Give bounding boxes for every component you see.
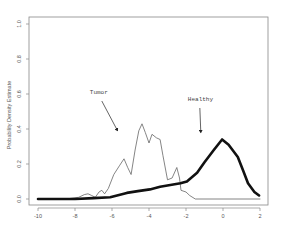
series-layer <box>38 124 260 199</box>
y-tick-label: 0.4 <box>16 125 22 133</box>
density-chart: 0.00.20.40.60.81.0 -10-8-6-4-202 Probabi… <box>0 0 281 228</box>
x-axis: -10-8-6-4-202 <box>34 208 262 219</box>
y-tick-label: 0.8 <box>16 55 22 63</box>
x-tick-label: -4 <box>147 213 152 219</box>
y-tick-label: 0.0 <box>16 195 22 203</box>
y-tick-label: 0.2 <box>16 160 22 168</box>
series-tumor-line <box>38 124 260 199</box>
y-tick-label: 1.0 <box>16 20 22 28</box>
x-tick-label: -2 <box>184 213 189 219</box>
annotation-healthy-label: Healthy <box>188 96 214 103</box>
y-axis-title: Probability Density Estimate <box>6 81 12 149</box>
annotations: TumorHealthy <box>90 89 214 133</box>
x-tick-label: 2 <box>258 213 261 219</box>
x-tick-label: -8 <box>73 213 78 219</box>
x-tick-label: -6 <box>110 213 115 219</box>
annotation-tumor-label: Tumor <box>90 89 108 96</box>
x-tick-label: -10 <box>34 213 42 219</box>
annotation-tumor-arrow-icon <box>102 101 118 131</box>
plot-frame <box>29 17 268 205</box>
y-axis: 0.00.20.40.60.81.0 <box>16 20 29 203</box>
annotation-healthy-arrow-icon <box>200 108 201 133</box>
y-tick-label: 0.6 <box>16 90 22 98</box>
x-tick-label: 0 <box>221 213 224 219</box>
series-healthy-line <box>38 140 259 200</box>
